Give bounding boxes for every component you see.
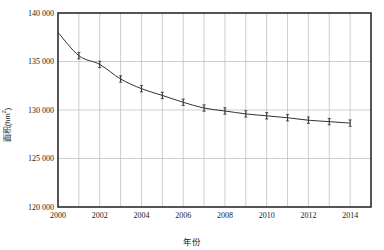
x-axis-title: 年份	[0, 231, 384, 249]
x-axis-title-text: 年份	[183, 237, 201, 247]
x-tick-label: 2014	[342, 211, 358, 220]
y-axis-tick-labels: 120 000125 000130 000135 000140 000	[28, 9, 54, 212]
y-tick-label: 140 000	[28, 9, 54, 18]
y-tick-label: 130 000	[28, 106, 54, 115]
x-tick-label: 2000	[50, 211, 66, 220]
y-tick-label: 125 000	[28, 154, 54, 163]
y-tick-label: 135 000	[28, 57, 54, 66]
x-tick-label: 2002	[92, 211, 108, 220]
x-tick-label: 2008	[217, 211, 233, 220]
x-tick-label: 2006	[175, 211, 191, 220]
chart-canvas: 120 000125 000130 000135 000140 000 2000…	[0, 0, 384, 250]
x-tick-label: 2010	[259, 211, 275, 220]
data-markers	[77, 52, 351, 126]
x-tick-label: 2004	[133, 211, 149, 220]
x-axis-tick-labels: 20002002200420062008201020122014	[50, 211, 358, 220]
x-tick-label: 2012	[300, 211, 316, 220]
chart-figure: 120 000125 000130 000135 000140 000 2000…	[0, 0, 384, 250]
